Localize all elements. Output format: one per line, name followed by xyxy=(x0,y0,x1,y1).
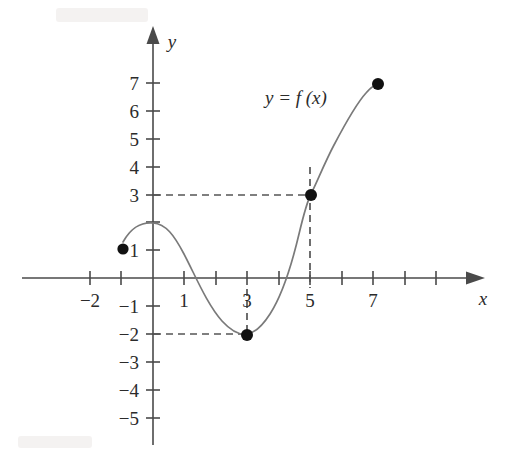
y-tick-label-1: 1 xyxy=(130,240,140,261)
point-left-endpoint xyxy=(117,243,128,254)
x-tick-label--2: −2 xyxy=(80,290,100,311)
y-axis xyxy=(147,26,160,445)
y-tick-label--3: −3 xyxy=(119,352,139,373)
y-tick-label-7: 7 xyxy=(130,73,140,94)
y-tick-label-3: 3 xyxy=(130,185,140,206)
y-tick-label-5: 5 xyxy=(130,129,140,150)
coordinate-plane: −21357 765431−1−2−3−4−5 x y y = f (x) xyxy=(0,0,514,462)
y-tick-label--1: −1 xyxy=(119,296,139,317)
x-tick-label-1: 1 xyxy=(179,290,189,311)
graph-figure: −21357 765431−1−2−3−4−5 x y y = f (x) xyxy=(0,0,514,462)
y-tick-label--5: −5 xyxy=(119,408,139,429)
curve-equation-label: y = f (x) xyxy=(263,87,327,109)
guide-lines xyxy=(154,167,311,334)
x-tick-label-3: 3 xyxy=(242,290,252,311)
y-tick-label--4: −4 xyxy=(119,380,140,401)
point-right-endpoint xyxy=(372,78,384,90)
point-x5-y3 xyxy=(305,189,317,201)
x-tick-label-5: 5 xyxy=(305,290,315,311)
y-axis-arrow-icon xyxy=(147,26,160,44)
x-axis-arrow-icon xyxy=(466,272,485,285)
x-tick-label-7: 7 xyxy=(368,290,378,311)
y-axis-name: y xyxy=(166,31,177,52)
y-tick-label--2: −2 xyxy=(119,324,139,345)
y-tick-label-6: 6 xyxy=(130,101,140,122)
x-axis-name: x xyxy=(478,288,488,309)
x-axis xyxy=(22,272,485,285)
point-local-minimum xyxy=(241,329,253,341)
y-tick-label-4: 4 xyxy=(130,157,140,178)
